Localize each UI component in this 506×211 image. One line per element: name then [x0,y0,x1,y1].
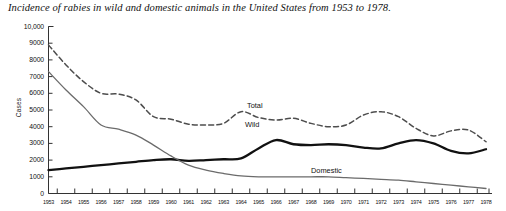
y-tick-label: 9000 [2,39,44,46]
x-tick-label: 1978 [476,199,496,205]
series-label-wild: Wild [245,120,259,129]
y-tick-label: 0 [2,190,44,197]
y-tick-label: 4000 [2,123,44,130]
y-tick-label: 2000 [2,156,44,163]
series-line-total [49,45,487,142]
y-tick-label: 6000 [2,89,44,96]
chart-page: Incidence of rabies in wild and domestic… [0,0,506,211]
y-tick-label: 8000 [2,56,44,63]
y-tick-label: 3000 [2,139,44,146]
series-line-wild [49,140,487,170]
y-tick-label: 7000 [2,73,44,80]
y-tick-label: 1000 [2,173,44,180]
series-label-domestic: Domestic [311,166,342,175]
y-tick-label: 10,000 [2,23,44,30]
y-tick-label: 5000 [2,106,44,113]
series-label-total: Total [247,101,263,110]
